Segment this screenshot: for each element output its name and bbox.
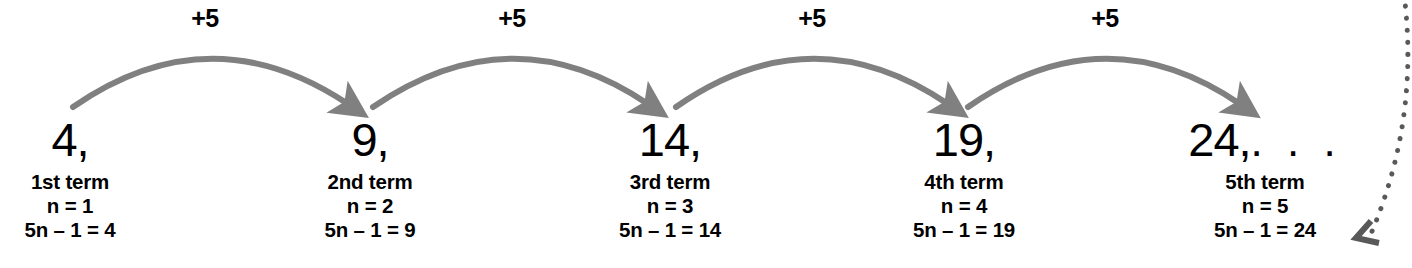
term-number: 9,: [351, 113, 388, 166]
term-formula: 5n – 1 = 9: [325, 218, 416, 242]
term-formula: 5n – 1 = 4: [25, 218, 116, 242]
term-group-4: 19, 4th term n = 4 5n – 1 = 19: [913, 116, 1015, 243]
term-n-value: n = 5: [1188, 194, 1341, 218]
step-arrow-4: [968, 59, 1240, 107]
step-label-1: +5: [191, 6, 219, 31]
term-ordinal-label: 2nd term: [325, 170, 416, 194]
term-ordinal-label: 1st term: [25, 170, 116, 194]
step-arrow-2: [373, 59, 648, 107]
term-ellipsis: . . .: [1251, 116, 1342, 165]
term-group-3: 14, 3rd term n = 3 5n – 1 = 14: [619, 116, 721, 243]
term-group-2: 9, 2nd term n = 2 5n – 1 = 9: [325, 116, 416, 243]
step-arrow-1: [73, 59, 348, 107]
term-formula: 5n – 1 = 19: [913, 218, 1015, 242]
step-label-2: +5: [498, 6, 526, 31]
step-label-4: +5: [1091, 6, 1119, 31]
term-n-value: n = 3: [619, 194, 721, 218]
step-arrow-3: [676, 59, 948, 107]
term-value: 24,. . .: [1188, 116, 1341, 166]
term-formula: 5n – 1 = 14: [619, 218, 721, 242]
term-ordinal-label: 5th term: [1188, 170, 1341, 194]
term-number: 14,: [639, 113, 701, 166]
term-number: 19,: [933, 113, 995, 166]
step-label-3: +5: [798, 6, 826, 31]
term-n-value: n = 1: [25, 194, 116, 218]
term-formula: 5n – 1 = 24: [1188, 218, 1341, 242]
term-value: 14,: [619, 116, 721, 166]
term-n-value: n = 2: [325, 194, 416, 218]
continuation-dotted-arrow: [1356, 0, 1408, 243]
term-number: 24,: [1188, 113, 1250, 166]
term-ordinal-label: 4th term: [913, 170, 1015, 194]
term-value: 9,: [325, 116, 416, 166]
term-value: 19,: [913, 116, 1015, 166]
term-value: 4,: [25, 116, 116, 166]
sequence-diagram: +5 +5 +5 +5 4, 1st term n = 1 5n – 1 = 4…: [0, 0, 1412, 268]
term-ordinal-label: 3rd term: [619, 170, 721, 194]
term-group-1: 4, 1st term n = 1 5n – 1 = 4: [25, 116, 116, 243]
term-group-5: 24,. . . 5th term n = 5 5n – 1 = 24: [1188, 116, 1341, 243]
term-n-value: n = 4: [913, 194, 1015, 218]
term-number: 4,: [51, 113, 88, 166]
